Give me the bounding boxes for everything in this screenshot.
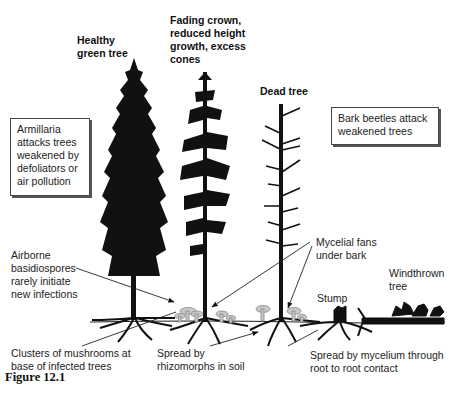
armillaria-box: Armillaria attacks trees weakened by def… <box>10 118 90 196</box>
healthy-tree-icon <box>92 58 175 342</box>
fading-tree-label: Fading crown, reduced height growth, exc… <box>170 14 246 66</box>
windthrown-tree-label: Windthrown tree <box>389 267 444 293</box>
stump-label: Stump <box>317 292 347 305</box>
healthy-tree-label: Healthy green tree <box>77 34 128 60</box>
dead-tree-label: Dead tree <box>260 85 308 98</box>
mycelial-fans-annotation: Mycelial fans under bark <box>316 236 377 262</box>
figure-caption: Figure 12.1 <box>5 370 65 385</box>
root-contact-annotation: Spread by mycelium through root to root … <box>310 349 444 375</box>
mushroom-cluster-icon <box>175 306 307 324</box>
rhizomorphs-annotation: Spread by rhizomorphs in soil <box>157 347 245 373</box>
basidiospores-annotation: Airborne basidiospores rarely initiate n… <box>11 249 78 301</box>
bark-beetles-box: Bark beetles attack weakened trees <box>331 107 439 145</box>
fading-tree-icon <box>170 72 248 344</box>
